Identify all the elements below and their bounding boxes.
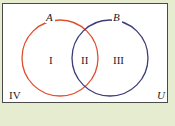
- region-ii-label: II: [81, 54, 89, 66]
- set-a-label: A: [45, 11, 53, 23]
- region-iii-label: III: [113, 54, 124, 66]
- venn-diagram: A B I II III IV U: [0, 0, 175, 126]
- universe-label: U: [157, 89, 166, 101]
- region-iv-label: IV: [9, 89, 21, 101]
- region-i-label: I: [49, 54, 53, 66]
- set-b-label: B: [113, 11, 120, 23]
